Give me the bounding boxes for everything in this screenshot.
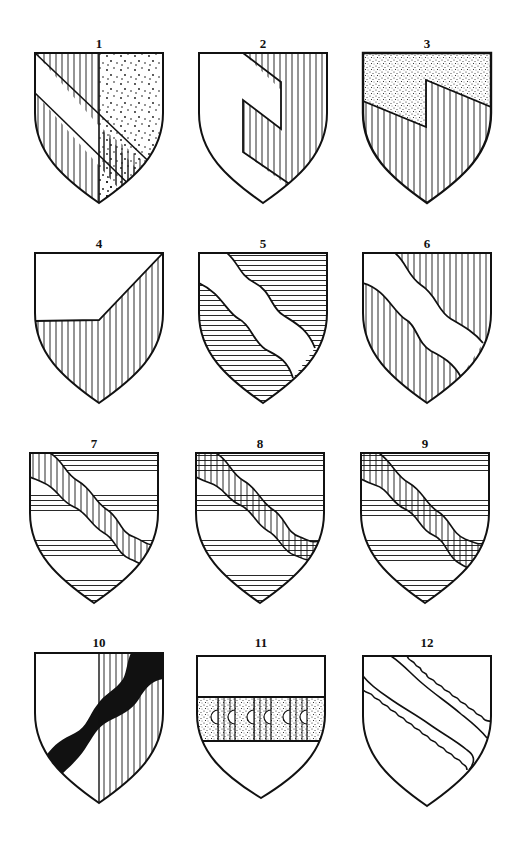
shield-3: [363, 53, 491, 203]
shield-7: [30, 453, 158, 603]
shield-9: [361, 453, 489, 603]
shield-12: [363, 656, 491, 806]
shield-label-1: 1: [33, 36, 165, 52]
shield-label-10: 10: [33, 635, 165, 651]
shield-label-11: 11: [195, 635, 327, 651]
shield-5: [199, 253, 327, 403]
shield-2: [199, 53, 327, 203]
shield-label-4: 4: [33, 236, 165, 252]
shield-label-2: 2: [197, 36, 329, 52]
shield-10: [35, 653, 163, 803]
shield-6: [363, 253, 491, 403]
shield-label-7: 7: [28, 436, 160, 452]
shield-label-12: 12: [361, 635, 493, 651]
shield-8: [196, 453, 324, 603]
shield-11: [197, 656, 325, 798]
shield-1: [35, 53, 163, 203]
shield-label-5: 5: [197, 236, 329, 252]
shield-label-3: 3: [361, 36, 493, 52]
shield-label-9: 9: [359, 436, 491, 452]
shield-4: [35, 253, 163, 403]
shield-label-6: 6: [361, 236, 493, 252]
shield-label-8: 8: [194, 436, 326, 452]
